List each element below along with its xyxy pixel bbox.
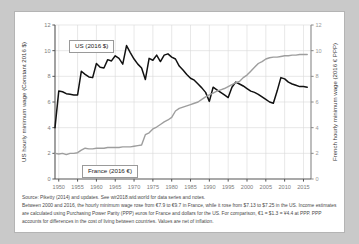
svg-text:8: 8 <box>316 73 319 79</box>
svg-text:1980: 1980 <box>165 184 177 190</box>
series-label-france: France (2016 €) <box>82 165 138 178</box>
svg-text:2005: 2005 <box>260 184 272 190</box>
svg-text:6: 6 <box>316 99 319 105</box>
series-line-france <box>55 55 307 155</box>
svg-text:1975: 1975 <box>147 184 159 190</box>
svg-text:1970: 1970 <box>128 184 140 190</box>
svg-text:1965: 1965 <box>109 184 121 190</box>
svg-text:1990: 1990 <box>203 184 215 190</box>
svg-text:1950: 1950 <box>53 184 65 190</box>
svg-text:4: 4 <box>47 125 50 131</box>
svg-text:6: 6 <box>47 99 50 105</box>
y-axis-title-right: French hourly minimum wage (2016 € PPP) <box>331 43 338 161</box>
figure-panel: 0246810120246810121950195519601965197019… <box>14 11 345 233</box>
y-axis-title-left: US hourly minimum wage (Constant 2016 $) <box>20 42 27 162</box>
svg-text:10: 10 <box>316 48 322 54</box>
svg-text:1955: 1955 <box>71 184 83 190</box>
svg-text:12: 12 <box>44 22 50 28</box>
svg-text:2015: 2015 <box>297 184 309 190</box>
svg-text:1995: 1995 <box>222 184 234 190</box>
line-chart: 0246810120246810121950195519601965197019… <box>15 12 346 208</box>
chart-plot-area: 0246810120246810121950195519601965197019… <box>15 12 346 208</box>
footnote-block: Source: Piketty (2014) and updates. See … <box>22 194 340 226</box>
svg-text:0: 0 <box>316 176 319 182</box>
svg-text:2010: 2010 <box>278 184 290 190</box>
svg-text:2: 2 <box>47 150 50 156</box>
footnote-source: Source: Piketty (2014) and updates. See … <box>22 194 340 202</box>
svg-text:8: 8 <box>47 73 50 79</box>
footnote-note: Between 2000 and 2016, the hourly minimu… <box>22 202 340 226</box>
series-label-us: US (2016 $) <box>69 40 114 53</box>
svg-text:4: 4 <box>316 125 319 131</box>
svg-text:1985: 1985 <box>184 184 196 190</box>
svg-text:2: 2 <box>316 150 319 156</box>
svg-text:12: 12 <box>316 22 322 28</box>
svg-text:2000: 2000 <box>241 184 253 190</box>
svg-text:10: 10 <box>44 48 50 54</box>
svg-text:1960: 1960 <box>90 184 102 190</box>
svg-text:0: 0 <box>47 176 50 182</box>
